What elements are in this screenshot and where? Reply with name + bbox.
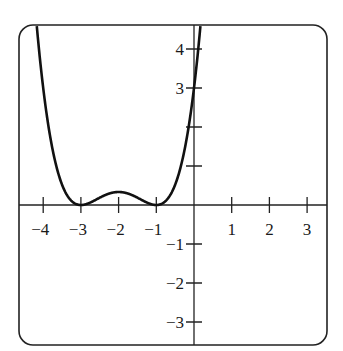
x-tick-label: 2 (265, 220, 274, 239)
y-tick-label: 3 (176, 79, 185, 98)
y-tick-label: 4 (176, 40, 185, 59)
x-tick-label: −1 (144, 220, 162, 239)
x-tick-label: −2 (107, 220, 125, 239)
plot-frame (19, 25, 327, 345)
x-tick-label: −4 (31, 220, 50, 239)
x-tick-label: 3 (303, 220, 312, 239)
y-tick-label: −1 (166, 235, 184, 254)
x-tick-label: 1 (227, 220, 236, 239)
function-graph: −4−3−2−1123 43−1−2−3 (0, 0, 343, 351)
x-tick-label: −3 (69, 220, 87, 239)
y-tick-label: −2 (166, 274, 184, 293)
y-tick-label: −3 (166, 313, 184, 332)
